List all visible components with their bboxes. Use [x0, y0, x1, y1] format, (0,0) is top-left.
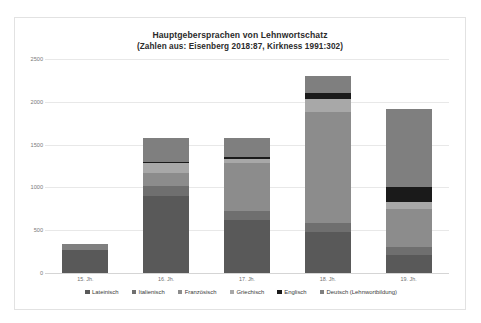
legend-label: Französisch	[185, 289, 217, 295]
legend-item-franz-sisch[interactable]: Französisch	[178, 289, 217, 295]
x-tick-label-1: 15. Jh.	[45, 276, 125, 282]
legend-label: Griechisch	[237, 289, 265, 295]
x-tick-label-4: 18. Jh.	[288, 276, 368, 282]
legend-label: Deutsch (Lehnwortbildung)	[327, 289, 397, 295]
x-tick-label-5: 19. Jh.	[369, 276, 449, 282]
y-tick-label-1500: 1500	[17, 142, 43, 148]
chart-frame: Hauptgebersprachen von Lehnwortschatz (Z…	[14, 17, 466, 310]
legend-item-deutsch-lehnwortbildung[interactable]: Deutsch (Lehnwortbildung)	[320, 289, 397, 295]
legend-swatch-icon	[132, 290, 137, 295]
y-tick-label-2000: 2000	[17, 99, 43, 105]
legend-item-italienisch[interactable]: Italienisch	[132, 289, 165, 295]
x-tick-label-2: 16. Jh.	[126, 276, 206, 282]
x-axis-tick-labels: 15. Jh.16. Jh.17. Jh.18. Jh.19. Jh.	[45, 18, 449, 311]
legend-swatch-icon	[230, 290, 235, 295]
y-tick-label-2500: 2500	[17, 56, 43, 62]
legend-swatch-icon	[85, 290, 90, 295]
y-tick-label-500: 500	[17, 227, 43, 233]
y-tick-label-0: 0	[17, 270, 43, 276]
chart-legend: LateinischItalienischFranzösischGriechis…	[15, 289, 467, 295]
legend-label: Englisch	[284, 289, 306, 295]
legend-swatch-icon	[178, 290, 183, 295]
y-tick-label-1000: 1000	[17, 184, 43, 190]
legend-label: Italienisch	[139, 289, 165, 295]
legend-label: Lateinisch	[92, 289, 119, 295]
x-tick-label-3: 17. Jh.	[207, 276, 287, 282]
legend-swatch-icon	[320, 290, 325, 295]
y-axis-tick-labels: 05001000150020002500	[15, 59, 43, 273]
legend-item-englisch[interactable]: Englisch	[277, 289, 306, 295]
legend-swatch-icon	[277, 290, 282, 295]
legend-item-griechisch[interactable]: Griechisch	[230, 289, 265, 295]
plot-wrapper: 05001000150020002500 15. Jh.16. Jh.17. J…	[15, 18, 467, 311]
legend-item-lateinisch[interactable]: Lateinisch	[85, 289, 119, 295]
